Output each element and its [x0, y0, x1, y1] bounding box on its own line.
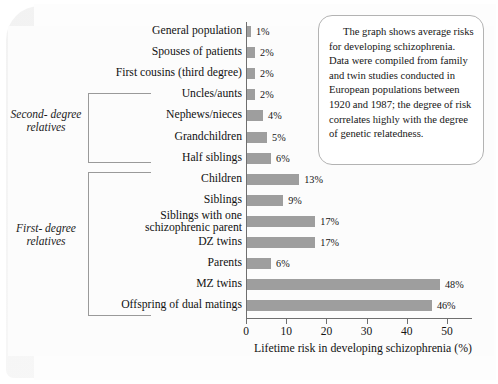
category-label: First cousins (third degree): [116, 67, 242, 79]
category-label: Uncles/aunts: [182, 88, 242, 100]
category-label: DZ twins: [198, 236, 242, 248]
category-label: MZ twins: [196, 278, 242, 290]
bar-value-label: 9%: [288, 195, 302, 206]
caption-box: The graph shows average risks for develo…: [318, 15, 484, 165]
category-label: Spouses of patients: [152, 46, 242, 58]
bar: [247, 258, 271, 269]
bar: [247, 110, 263, 121]
bar: [247, 26, 251, 37]
category-label: General population: [152, 25, 242, 37]
bar-value-label: 48%: [445, 279, 464, 290]
bar: [247, 279, 440, 290]
bar-value-label: 13%: [304, 174, 323, 185]
schizophrenia-risk-figure: Second- degree relatives First- degree r…: [0, 0, 498, 384]
category-label: Grandchildren: [175, 131, 243, 143]
category-label: Offspring of dual matings: [121, 299, 242, 311]
category-label: Half siblings: [182, 152, 242, 164]
bar: [247, 300, 432, 311]
x-axis-tick-label: 0: [243, 325, 249, 337]
x-axis-tick-label: 20: [321, 325, 333, 337]
category-label: Nephews/nieces: [166, 109, 242, 121]
bar-value-label: 5%: [272, 132, 286, 143]
category-label: Children: [201, 173, 242, 185]
category-label: Parents: [208, 257, 242, 269]
category-label-column: General populationSpouses of patientsFir…: [96, 0, 242, 384]
x-axis-tick: [407, 319, 408, 324]
caption-text: The graph shows average risks for develo…: [329, 25, 474, 142]
bar: [247, 216, 315, 227]
bar-value-label: 4%: [268, 110, 282, 121]
x-axis-tick-label: 40: [401, 325, 413, 337]
bracket-label-second-degree: Second- degree relatives: [10, 108, 82, 133]
bar: [247, 132, 267, 143]
x-axis-tick: [286, 319, 287, 324]
x-axis-label: Lifetime risk in developing schizophreni…: [238, 341, 488, 356]
x-axis-tick: [447, 319, 448, 324]
bar: [247, 89, 255, 100]
x-axis-tick: [326, 319, 327, 324]
bar: [247, 68, 255, 79]
category-label: Siblings: [204, 194, 242, 206]
bracket-label-first-degree: First- degree relatives: [10, 222, 82, 247]
bar: [247, 237, 315, 248]
bar-value-label: 1%: [256, 26, 270, 37]
x-axis-tick: [246, 319, 247, 324]
x-axis-line: [246, 318, 472, 319]
x-axis-tick-label: 30: [361, 325, 373, 337]
bar: [247, 195, 283, 206]
bar: [247, 153, 271, 164]
bar-value-label: 2%: [260, 68, 274, 79]
bar-value-label: 2%: [260, 89, 274, 100]
x-axis-tick-label: 10: [280, 325, 292, 337]
bar-value-label: 46%: [437, 300, 456, 311]
bar: [247, 174, 299, 185]
bar-value-label: 17%: [320, 216, 339, 227]
category-label: Siblings with one schizophrenic parent: [145, 210, 242, 234]
x-axis-tick: [367, 319, 368, 324]
y-axis-line: [246, 22, 247, 318]
bar: [247, 47, 255, 58]
bar-value-label: 6%: [276, 258, 290, 269]
bar-value-label: 17%: [320, 237, 339, 248]
bar-value-label: 6%: [276, 153, 290, 164]
bar-value-label: 2%: [260, 47, 274, 58]
x-axis-tick-label: 50: [441, 325, 453, 337]
